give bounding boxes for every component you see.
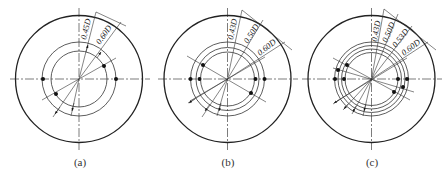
measurement-point: [254, 77, 258, 81]
dimension-arrow: [86, 45, 88, 52]
caption-panel-c: (c): [366, 156, 378, 168]
measurement-point: [392, 90, 396, 94]
dimension-arrow: [97, 52, 101, 58]
measurement-point: [333, 77, 337, 81]
panel-b-diagram: 0.43D 0.50D 0.60D: [158, 8, 298, 150]
measurement-point: [263, 77, 267, 81]
measurement-point: [54, 92, 58, 96]
measurement-point: [336, 68, 340, 72]
ring-label: 0.50D: [241, 21, 261, 45]
measurement-point: [401, 85, 405, 89]
dimension-ray: [202, 79, 228, 117]
caption-panel-a: (a): [74, 156, 86, 168]
measurement-point: [102, 64, 106, 68]
dimension-ray: [372, 42, 429, 79]
ring-label: 0.45D: [78, 17, 93, 41]
measurement-point: [189, 77, 193, 81]
ring-label: 0.60D: [93, 22, 114, 46]
dimension-arrow: [72, 103, 74, 111]
caption-panel-b: (b): [222, 156, 235, 168]
diagram-canvas: 0.45D 0.60D: [0, 0, 448, 179]
measurement-point: [396, 77, 400, 81]
dimension-ray: [372, 9, 385, 79]
measurement-point: [345, 63, 349, 67]
measurement-point: [41, 77, 45, 81]
measurement-point: [342, 77, 346, 81]
measurement-point: [114, 77, 118, 81]
panel-a-diagram: 0.45D 0.60D: [10, 8, 150, 150]
measurement-point: [198, 77, 202, 81]
measurement-point-diagram-figure: 0.45D 0.60D: [0, 0, 448, 179]
dimension-arrow: [334, 100, 339, 103]
panel-c-diagram: 0.43D 0.50D 0.53D 0.60D: [302, 8, 442, 150]
measurement-point: [405, 77, 409, 81]
measurement-point: [201, 63, 205, 67]
ring-label: 0.60D: [255, 36, 278, 57]
measurement-point: [249, 91, 253, 95]
